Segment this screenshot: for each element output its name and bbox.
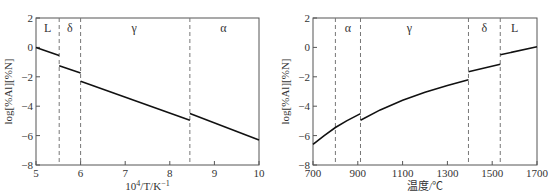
data-line-α: [313, 114, 361, 145]
y-tick-label: −6: [21, 130, 33, 142]
y-tick-label: 0: [305, 41, 311, 53]
plot-left: 567891020−2−4−6−8log[%Al][%N]104/T/K−1Lδ…: [0, 0, 278, 196]
x-tick-label: 1300: [436, 167, 459, 179]
x-tick-label: 900: [350, 167, 367, 179]
x-tick-label: 8: [167, 167, 173, 179]
data-line-δ: [469, 64, 501, 71]
x-axis-title: 104/T/K−1: [125, 179, 169, 192]
phase-label: L: [511, 21, 518, 35]
y-tick-label: −2: [298, 71, 310, 83]
data-line-L: [500, 47, 537, 55]
y-tick-label: −6: [298, 130, 310, 142]
phase-label: α: [345, 21, 352, 35]
y-tick-label: −2: [21, 71, 33, 83]
phase-label: α: [220, 21, 227, 35]
data-line-γ: [361, 80, 469, 121]
y-tick-label: −8: [21, 159, 33, 171]
x-tick-label: 6: [78, 167, 84, 179]
chart-left-inverse-temperature: 567891020−2−4−6−8log[%Al][%N]104/T/K−1Lδ…: [0, 0, 278, 196]
x-tick-label: 1100: [392, 167, 414, 179]
y-tick-label: 0: [28, 41, 34, 53]
phase-label: δ: [482, 21, 488, 35]
y-axis-title: log[%Al][%N]: [279, 59, 291, 125]
data-line-α: [190, 114, 259, 140]
phase-label: γ: [130, 21, 137, 35]
plot-frame: [36, 18, 259, 165]
y-tick-label: −4: [21, 100, 33, 112]
data-line-γ: [81, 81, 190, 120]
chart-right-temperature: 700900110013001500170020−2−4−6−8log[%Al]…: [278, 0, 556, 196]
x-tick-label: 10: [254, 167, 266, 179]
x-tick-label: 5: [33, 167, 39, 179]
data-line-L: [36, 47, 59, 55]
y-tick-label: −4: [298, 100, 310, 112]
data-line-δ: [59, 66, 80, 73]
x-tick-label: 7: [122, 167, 128, 179]
plot-right: 700900110013001500170020−2−4−6−8log[%Al]…: [278, 0, 556, 196]
phase-label: γ: [406, 21, 413, 35]
y-tick-label: 2: [305, 12, 311, 24]
x-tick-label: 1500: [481, 167, 504, 179]
x-axis-title: 温度/℃: [407, 179, 443, 192]
x-tick-label: 9: [212, 167, 218, 179]
y-axis-title: log[%Al][%N]: [2, 59, 14, 125]
y-tick-label: 2: [28, 12, 34, 24]
phase-label: L: [44, 21, 51, 35]
phase-label: δ: [67, 21, 73, 35]
x-tick-label: 1700: [526, 167, 549, 179]
y-tick-label: −8: [298, 159, 310, 171]
